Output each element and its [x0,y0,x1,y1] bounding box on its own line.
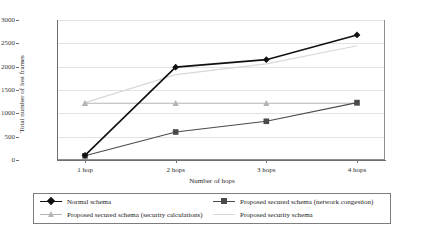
legend-item[interactable]: Normal schema [40,196,213,209]
gridline [58,43,384,44]
y-tick-mark [16,43,19,44]
y-tick-mark [16,160,19,161]
y-tick-label: 3000 [1,17,15,24]
legend-swatch-icon [213,210,235,220]
x-axis-line [57,160,386,161]
x-axis-title: Number of hops [0,177,424,185]
gridline [58,90,384,91]
legend-item[interactable]: Proposed secured schema (network congest… [213,196,386,209]
y-tick-label: 1500 [1,87,15,94]
y-tick-mark [16,20,19,21]
legend-item[interactable]: Proposed security schema [213,209,386,222]
gridline [58,20,384,21]
x-tick-mark [176,160,177,163]
gridline [58,137,384,138]
x-tick-label: 2 hops [166,166,184,174]
y-tick-mark [16,137,19,138]
legend-label: Proposed secured schema (security calcul… [67,211,203,219]
y-tick-label: 500 [5,133,16,140]
legend-swatch-icon [40,210,62,220]
x-tick-label: 4 hops [348,166,366,174]
legend-item[interactable]: Proposed secured schema (security calcul… [40,209,213,222]
legend-label: Proposed secured schema (network congest… [240,198,373,206]
x-tick-label: 1 hop [77,166,93,174]
x-tick-mark [85,160,86,163]
line-chart-figure: Total number of lost frames 050010001500… [0,0,424,242]
x-tick-mark [266,160,267,163]
legend-swatch-icon [213,197,235,207]
y-tick-label: 1000 [1,110,15,117]
y-tick-label: 2000 [1,63,15,70]
legend-label: Normal schema [67,198,111,206]
y-tick-label: 0 [12,157,16,164]
legend-swatch-icon [40,197,62,207]
legend-label: Proposed security schema [240,211,313,219]
y-tick-mark [16,67,19,68]
x-tick-label: 3 hops [257,166,275,174]
gridline [58,67,384,68]
plot-area [57,20,385,160]
x-tick-mark [357,160,358,163]
gridline [58,113,384,114]
y-tick-mark [16,113,19,114]
chart-legend: Normal schemaProposed secured schema (ne… [33,193,391,224]
y-tick-mark [16,90,19,91]
y-tick-label: 2500 [1,40,15,47]
y-axis-line [57,20,58,161]
